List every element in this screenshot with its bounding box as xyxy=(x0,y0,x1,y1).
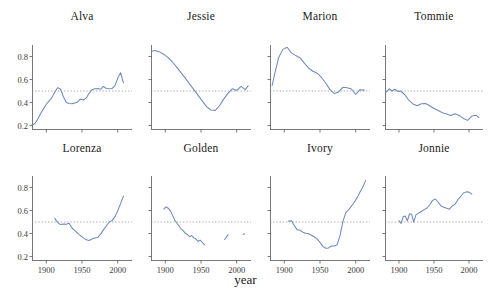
y-tick-label: 0.4 xyxy=(4,98,28,108)
plot-area-marion xyxy=(270,45,378,137)
series-line-golden-seg2 xyxy=(243,234,244,235)
facet-title-lorenza: Lorenza xyxy=(32,142,132,154)
y-tick-label: 0.8 xyxy=(4,183,28,193)
facet-title-marion: Marion xyxy=(270,10,370,22)
series-line-jonnie xyxy=(399,192,472,224)
y-tick-label: 0.6 xyxy=(4,75,28,85)
y-tick-label: 0.4 xyxy=(4,229,28,239)
facet-title-ivory: Ivory xyxy=(270,142,370,154)
facet-title-tommie: Tommie xyxy=(385,10,483,22)
plot-area-jessie xyxy=(151,45,259,137)
plot-area-golden xyxy=(151,176,259,268)
y-tick-label: 0.6 xyxy=(4,206,28,216)
series-line-alva xyxy=(32,73,123,125)
series-line-lorenza xyxy=(55,196,124,240)
facet-title-jessie: Jessie xyxy=(151,10,251,22)
series-line-jessie xyxy=(152,51,248,111)
series-line-ivory xyxy=(289,180,366,248)
plot-area-alva xyxy=(32,45,140,137)
plot-area-ivory xyxy=(270,176,378,268)
series-line-golden-seg1 xyxy=(225,235,229,240)
y-tick-label: 0.8 xyxy=(4,52,28,62)
plot-area-lorenza xyxy=(32,176,140,268)
x-axis-title: year xyxy=(0,272,491,288)
y-tick-label: 0.2 xyxy=(4,252,28,262)
series-line-tommie xyxy=(386,89,478,121)
series-line-marion xyxy=(272,47,364,94)
plot-area-jonnie xyxy=(385,176,491,268)
facet-title-alva: Alva xyxy=(32,10,132,22)
facet-title-jonnie: Jonnie xyxy=(385,142,483,154)
facet-title-golden: Golden xyxy=(151,142,251,154)
small-multiples-chart: Alva0.20.40.60.8JessieMarionTommieLorenz… xyxy=(0,0,491,292)
plot-area-tommie xyxy=(385,45,491,137)
series-line-golden-seg0 xyxy=(164,207,205,245)
y-tick-label: 0.2 xyxy=(4,121,28,131)
